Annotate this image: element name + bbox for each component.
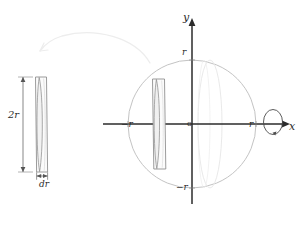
y-axis-label: y (183, 12, 189, 23)
diagram-svg (0, 0, 305, 229)
origin-label: o (187, 120, 192, 128)
y-positive-tick-label: r (182, 48, 186, 57)
representative-disk (153, 79, 166, 169)
rotation-ellipse (264, 110, 283, 136)
figure-canvas: y x o r −r r −r 2r dr (0, 0, 305, 229)
height-dimension-2r (18, 77, 33, 172)
x-negative-tick-label: −r (121, 120, 133, 129)
coordinate-axes (103, 18, 290, 204)
magnified-disk (36, 77, 48, 172)
curved-callout-arrow (40, 33, 150, 63)
y-negative-tick-label: −r (176, 183, 188, 192)
x-axis-label: x (289, 121, 295, 132)
disk-height-label: 2r (8, 110, 19, 120)
disk-thickness-label: dr (39, 180, 49, 189)
x-positive-tick-label: r (249, 120, 253, 129)
